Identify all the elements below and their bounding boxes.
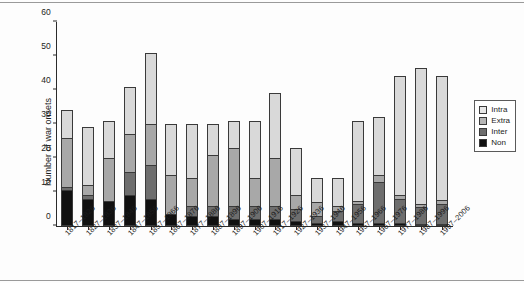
y-axis-tick-mark — [53, 157, 57, 158]
bar-segment-intra — [249, 121, 261, 179]
bar-segment-extra — [124, 134, 136, 171]
bar-stack — [61, 110, 73, 226]
page-rule-top — [0, 2, 524, 3]
bar-segment-intra — [61, 110, 73, 137]
y-axis-tick-label: 30 — [41, 109, 57, 119]
y-axis-tick-label: 20 — [41, 143, 57, 153]
bar-segment-intra — [228, 121, 240, 148]
bar-segment-intra — [165, 124, 177, 175]
bar-segment-intra — [311, 178, 323, 202]
bar-segment-intra — [415, 68, 427, 204]
y-axis-tick-mark — [53, 123, 57, 124]
bar-segment-extra — [103, 158, 115, 201]
bar-segment-intra — [82, 127, 94, 185]
y-axis-tick-mark — [53, 89, 57, 90]
bar-segment-intra — [269, 93, 281, 158]
legend-item-intra: Intra — [479, 104, 510, 115]
bar-segment-intra — [145, 53, 157, 124]
bar-segment-extra — [269, 158, 281, 206]
bar-stack — [415, 68, 427, 226]
legend-swatch-non — [479, 139, 487, 147]
y-axis-tick-mark — [53, 21, 57, 22]
legend-label: Non — [491, 138, 506, 147]
bar-stack — [145, 53, 157, 226]
plot-area: 0102030405060 — [57, 22, 452, 226]
y-axis-tick-label: 40 — [41, 75, 57, 85]
figure-chart-war-onsets: Number of war onsets 0102030405060 Intra… — [0, 0, 524, 283]
y-axis-tick-label: 60 — [41, 7, 57, 17]
legend-label: Extra — [491, 116, 510, 125]
legend-swatch-intra — [479, 106, 487, 114]
bar-segment-intra — [332, 178, 344, 205]
y-axis-tick-label: 10 — [41, 177, 57, 187]
page-rule-bottom — [0, 280, 524, 281]
bar-stack — [436, 76, 448, 226]
bar-segment-extra — [373, 175, 385, 182]
y-axis-tick-mark — [53, 191, 57, 192]
y-axis-tick-mark — [53, 55, 57, 56]
y-axis-tick-label: 50 — [41, 41, 57, 51]
legend-item-non: Non — [479, 137, 510, 148]
bar-segment-intra — [436, 76, 448, 200]
bar-segment-extra — [82, 185, 94, 195]
legend-label: Intra — [491, 105, 507, 114]
y-axis-tick-mark — [53, 225, 57, 226]
bar-stack — [394, 76, 406, 226]
legend-item-extra: Extra — [479, 115, 510, 126]
bar-segment-intra — [103, 121, 115, 158]
bar-segment-intra — [207, 124, 219, 155]
legend-swatch-extra — [479, 117, 487, 125]
bar-segment-intra — [186, 124, 198, 178]
legend-label: Inter — [491, 127, 507, 136]
legend-item-inter: Inter — [479, 126, 510, 137]
bar-segment-intra — [124, 87, 136, 135]
y-axis-tick-label: 0 — [46, 211, 57, 221]
bar-segment-intra — [394, 76, 406, 195]
bar-segment-inter — [145, 165, 157, 199]
bar-segment-inter — [124, 172, 136, 196]
legend-swatch-inter — [479, 128, 487, 136]
bar-segment-extra — [145, 124, 157, 165]
bar-segment-intra — [373, 117, 385, 175]
bar-segment-extra — [228, 148, 240, 206]
chart-legend: IntraExtraInterNon — [474, 100, 516, 152]
bar-segment-extra — [186, 178, 198, 205]
bar-segment-intra — [352, 121, 364, 201]
bar-segment-extra — [249, 178, 261, 205]
bar-segment-extra — [61, 138, 73, 187]
bar-segment-extra — [207, 155, 219, 206]
bar-segment-intra — [290, 148, 302, 196]
